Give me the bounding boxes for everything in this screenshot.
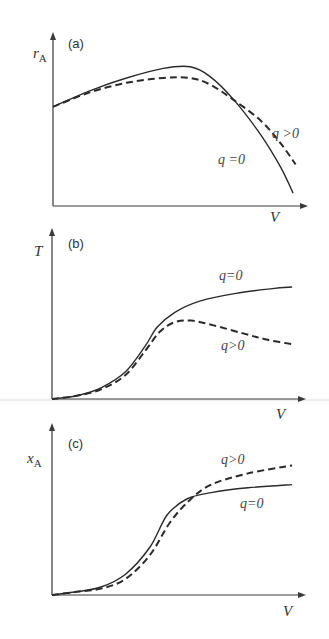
y-axis-label-main: T [34, 243, 44, 259]
panel-b: (b) T V q=0 q>0 [34, 228, 306, 422]
y-axis-label: T [34, 243, 44, 259]
curve-qpos [52, 465, 292, 595]
panel-tag: (c) [68, 436, 83, 451]
curve-q0 [52, 287, 292, 399]
y-axis-arrow-icon [50, 32, 56, 40]
curve-qpos [52, 320, 295, 399]
curve-label-q0: q=0 [219, 268, 242, 283]
y-axis-label: rA [33, 45, 47, 64]
figure: (a) rA V q =0 q >0 (b) T V q=0 q>0 (c) x… [0, 0, 329, 639]
curve-label-qpos: q>0 [221, 452, 244, 467]
y-axis-label-sub: A [39, 52, 47, 64]
panel-tag: (a) [68, 36, 84, 51]
curve-label-q0: q=0 [240, 496, 263, 511]
x-axis-label: V [270, 209, 281, 225]
panel-a: (a) rA V q =0 q >0 [33, 32, 308, 225]
y-axis-label-sub: A [34, 457, 42, 469]
panel-c: (c) xA V q>0 q=0 [26, 423, 306, 619]
x-axis-label: V [283, 603, 294, 619]
y-axis-arrow-icon [49, 228, 55, 236]
x-axis-label: V [276, 406, 287, 422]
curve-label-q0: q =0 [218, 152, 245, 167]
x-axis-arrow-icon [298, 592, 306, 598]
curve-q0 [53, 66, 293, 193]
y-axis-label: xA [26, 450, 42, 469]
panel-tag: (b) [68, 236, 84, 251]
x-axis-arrow-icon [300, 203, 308, 209]
x-axis-arrow-icon [298, 396, 306, 402]
curve-label-qpos: q >0 [272, 126, 299, 141]
curve-label-qpos: q>0 [221, 338, 244, 353]
y-axis-arrow-icon [49, 423, 55, 431]
